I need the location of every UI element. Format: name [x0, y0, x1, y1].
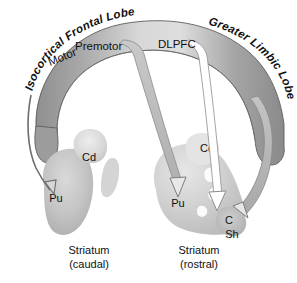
label-pu-rostral: Pu: [171, 197, 184, 209]
label-shell-rostral: Sh: [225, 228, 238, 240]
label-pu-caudal: Pu: [49, 192, 62, 204]
label-dlpfc: DLPFC: [158, 38, 196, 50]
label-premotor: Premotor: [75, 40, 122, 52]
projection-premotor-to-putamen-rostral: [119, 40, 186, 197]
label-core-rostral: C: [225, 214, 233, 226]
label-cd-caudal: Cd: [82, 151, 96, 163]
figure-root: Isocortical Frontal Lobe Greater Limbic …: [0, 0, 297, 283]
caption-striatum-rostral-line1: Striatum: [179, 244, 220, 256]
brain-circuit-diagram: Isocortical Frontal Lobe Greater Limbic …: [0, 0, 297, 283]
caption-striatum-rostral-line2: (rostral): [180, 258, 218, 270]
caption-striatum-caudal-line2: (caudal): [69, 258, 109, 270]
caudate-caudal-tail: [101, 158, 119, 197]
projection-premotor-band: [119, 40, 182, 182]
caption-striatum-caudal-line1: Striatum: [69, 244, 110, 256]
